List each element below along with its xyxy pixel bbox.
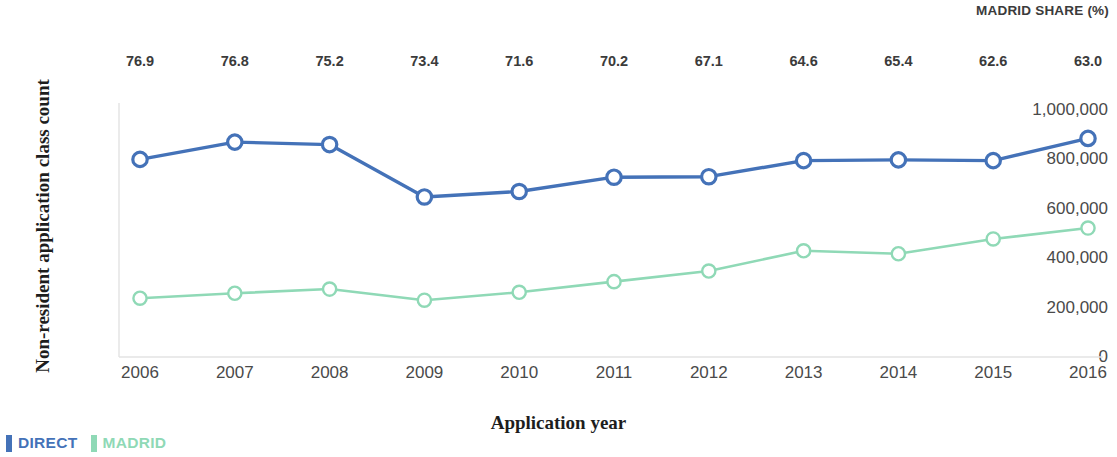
y-axis-tick-label: 600,000 bbox=[999, 199, 1117, 219]
madrid-share-value: 62.6 bbox=[979, 53, 1007, 69]
madrid-share-value: 73.4 bbox=[410, 53, 438, 69]
data-point-marker[interactable] bbox=[702, 264, 715, 277]
x-axis-tick-label: 2015 bbox=[974, 363, 1012, 383]
data-point-marker[interactable] bbox=[607, 275, 620, 288]
series-direct bbox=[133, 131, 1095, 204]
x-axis-tick-label: 2014 bbox=[879, 363, 917, 383]
series-layer bbox=[133, 131, 1095, 307]
madrid-share-value: 71.6 bbox=[505, 53, 533, 69]
y-axis-tick-label: 1,000,000 bbox=[999, 100, 1117, 120]
data-point-marker[interactable] bbox=[323, 282, 336, 295]
data-point-marker[interactable] bbox=[418, 294, 431, 307]
data-point-marker[interactable] bbox=[987, 232, 1000, 245]
chart-legend: DIRECTMADRID bbox=[6, 434, 166, 452]
madrid-share-value: 70.2 bbox=[600, 53, 628, 69]
data-point-marker[interactable] bbox=[797, 244, 810, 257]
series-line bbox=[140, 228, 1088, 300]
x-axis-tick-label: 2016 bbox=[1069, 363, 1107, 383]
legend-label: MADRID bbox=[103, 434, 167, 452]
x-axis-tick-label: 2010 bbox=[500, 363, 538, 383]
data-point-marker[interactable] bbox=[512, 184, 526, 198]
data-point-marker[interactable] bbox=[133, 292, 146, 305]
data-point-marker[interactable] bbox=[702, 169, 716, 183]
madrid-share-header: MADRID SHARE (%) bbox=[976, 3, 1109, 18]
y-axis-title: Non-resident application class count bbox=[32, 66, 54, 386]
x-axis-tick-label: 2009 bbox=[405, 363, 443, 383]
data-point-marker[interactable] bbox=[322, 137, 336, 151]
legend-label: DIRECT bbox=[18, 434, 78, 452]
madrid-share-value: 65.4 bbox=[884, 53, 912, 69]
x-axis-tick-label: 2007 bbox=[216, 363, 254, 383]
legend-item-madrid[interactable]: MADRID bbox=[91, 434, 167, 452]
data-point-marker[interactable] bbox=[133, 152, 147, 166]
data-point-marker[interactable] bbox=[228, 287, 241, 300]
series-madrid bbox=[133, 221, 1094, 306]
data-point-marker[interactable] bbox=[796, 153, 810, 167]
x-axis-tick-label: 2013 bbox=[785, 363, 823, 383]
y-axis-tick-label: 200,000 bbox=[999, 298, 1117, 318]
axis-lines bbox=[119, 103, 1103, 357]
legend-swatch-icon bbox=[6, 435, 12, 452]
madrid-share-value: 63.0 bbox=[1074, 53, 1102, 69]
series-line bbox=[140, 138, 1088, 197]
data-point-marker[interactable] bbox=[228, 135, 242, 149]
data-point-marker[interactable] bbox=[1081, 131, 1095, 145]
data-point-marker[interactable] bbox=[607, 170, 621, 184]
x-axis-tick-label: 2006 bbox=[121, 363, 159, 383]
madrid-share-value: 67.1 bbox=[695, 53, 723, 69]
data-point-marker[interactable] bbox=[892, 247, 905, 260]
x-axis-tick-label: 2008 bbox=[311, 363, 349, 383]
line-chart: MADRID SHARE (%) 76.976.875.273.471.670.… bbox=[0, 0, 1117, 457]
legend-item-direct[interactable]: DIRECT bbox=[6, 434, 78, 452]
x-axis-title: Application year bbox=[0, 412, 1117, 434]
madrid-share-value: 75.2 bbox=[315, 53, 343, 69]
x-axis-tick-label: 2011 bbox=[596, 363, 633, 383]
legend-swatch-icon bbox=[91, 435, 97, 452]
x-axis-tick-label: 2012 bbox=[690, 363, 728, 383]
madrid-share-value: 76.8 bbox=[221, 53, 249, 69]
data-point-marker[interactable] bbox=[1081, 221, 1094, 234]
data-point-marker[interactable] bbox=[417, 190, 431, 204]
madrid-share-value-row: 76.976.875.273.471.670.267.164.665.462.6… bbox=[0, 53, 1117, 75]
madrid-share-value: 76.9 bbox=[126, 53, 154, 69]
data-point-marker[interactable] bbox=[513, 286, 526, 299]
y-axis-tick-label: 400,000 bbox=[999, 248, 1117, 268]
data-point-marker[interactable] bbox=[891, 153, 905, 167]
madrid-share-value: 64.6 bbox=[789, 53, 817, 69]
y-axis-tick-label: 800,000 bbox=[999, 149, 1117, 169]
